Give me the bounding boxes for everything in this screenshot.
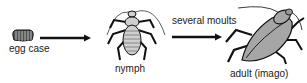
adult-label: adult (imago) (230, 69, 288, 79)
arrow-egg-to-nymph (40, 35, 91, 42)
adult-cockroach-icon (226, 7, 304, 64)
nymph-icon (107, 11, 165, 60)
nymph-label: nymph (115, 64, 145, 74)
egg-case-label: egg case (9, 44, 50, 54)
arrow-nymph-to-adult (172, 34, 222, 41)
life-cycle-diagram: egg case nymph several moults adult (ima… (0, 0, 307, 83)
moults-label: several moults (172, 16, 236, 26)
egg-case-icon (13, 30, 33, 41)
